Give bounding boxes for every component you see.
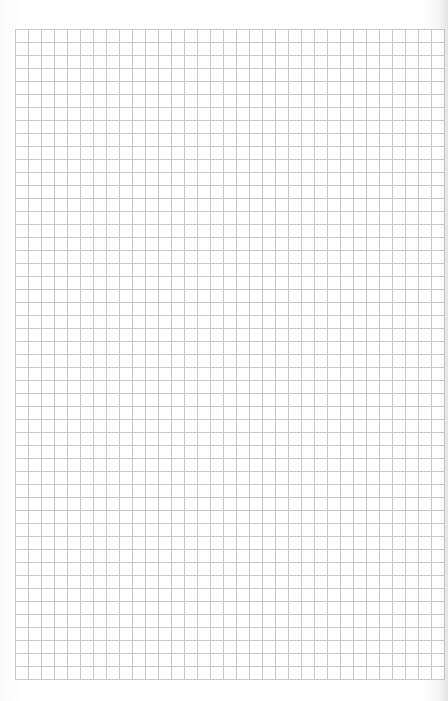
graph-paper-sheet: [0, 0, 448, 701]
grid-area: [15, 29, 445, 680]
page-edge-shadow: [440, 0, 448, 701]
